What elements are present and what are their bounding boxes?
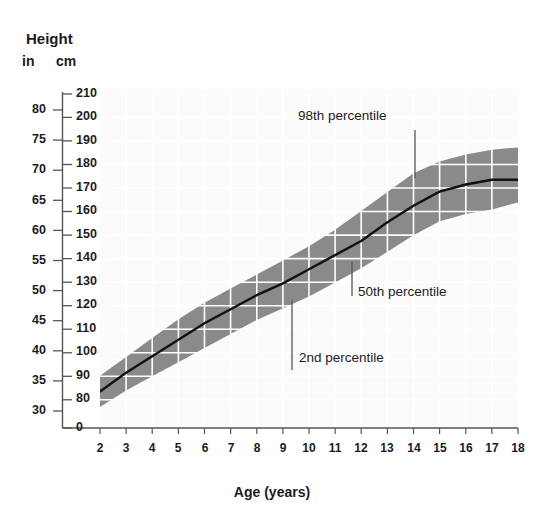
x-tick: 9 [271, 441, 295, 455]
x-tick: 12 [349, 441, 373, 455]
growth-chart-figure: BOYS HEIGHT (2-18 YEARS) Height in cm [0, 0, 544, 518]
x-tick: 5 [166, 441, 190, 455]
x-tick: 8 [245, 441, 269, 455]
y-tick-cm: 0 [76, 420, 106, 434]
y-tick-in: 35 [20, 373, 46, 387]
cm-tick-marks [63, 94, 73, 428]
x-tick: 16 [454, 441, 478, 455]
inch-tick-marks [53, 110, 63, 411]
annotation-98th-percentile: 98th percentile [298, 108, 387, 123]
y-tick-in: 80 [20, 102, 46, 116]
y-tick-cm: 80 [76, 391, 106, 405]
x-tick: 10 [297, 441, 321, 455]
gridlines [100, 90, 518, 428]
y-tick-in: 55 [20, 253, 46, 267]
y-tick-in: 45 [20, 313, 46, 327]
x-tick: 7 [219, 441, 243, 455]
x-tick: 18 [506, 441, 530, 455]
x-tick: 4 [140, 441, 164, 455]
x-tick: 15 [428, 441, 452, 455]
y-tick-cm: 210 [76, 86, 106, 100]
y-tick-cm: 120 [76, 297, 106, 311]
x-tick: 2 [88, 441, 112, 455]
y-tick-in: 30 [20, 403, 46, 417]
x-tick: 14 [402, 441, 426, 455]
x-tick: 11 [323, 441, 347, 455]
y-tick-cm: 110 [76, 321, 106, 335]
y-tick-cm: 170 [76, 180, 106, 194]
y-tick-in: 65 [20, 193, 46, 207]
x-axis-title: Age (years) [0, 484, 544, 500]
y-tick-cm: 90 [76, 368, 106, 382]
x-tick: 3 [114, 441, 138, 455]
y-tick-cm: 100 [76, 344, 106, 358]
y-tick-cm: 180 [76, 156, 106, 170]
y-tick-in: 50 [20, 283, 46, 297]
y-tick-cm: 200 [76, 109, 106, 123]
x-tick: 6 [193, 441, 217, 455]
x-tick-marks [100, 428, 518, 434]
y-tick-cm: 190 [76, 133, 106, 147]
annotation-2nd-percentile: 2nd percentile [299, 350, 384, 365]
y-tick-in: 40 [20, 343, 46, 357]
y-tick-cm: 150 [76, 227, 106, 241]
x-tick: 13 [375, 441, 399, 455]
y-tick-cm: 160 [76, 203, 106, 217]
y-tick-in: 60 [20, 223, 46, 237]
x-tick: 17 [480, 441, 504, 455]
y-tick-cm: 130 [76, 274, 106, 288]
y-tick-in: 70 [20, 162, 46, 176]
annotation-50th-percentile: 50th percentile [358, 284, 447, 299]
y-tick-cm: 140 [76, 250, 106, 264]
y-tick-in: 75 [20, 132, 46, 146]
